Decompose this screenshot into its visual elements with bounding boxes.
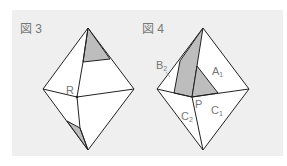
figure-3-title: 図 3: [20, 22, 42, 36]
label-b2: B2: [156, 59, 167, 72]
figures-svg: 図 3 R 図 4 B2 A1 P C2 C1: [0, 0, 287, 166]
label-r: R: [66, 84, 74, 96]
point-r: [76, 96, 79, 99]
figure-3: 図 3 R: [20, 22, 134, 150]
figure-4: 図 4 B2 A1 P C2 C1: [142, 22, 249, 150]
figure-4-title: 図 4: [142, 22, 164, 36]
label-p: P: [195, 98, 202, 110]
